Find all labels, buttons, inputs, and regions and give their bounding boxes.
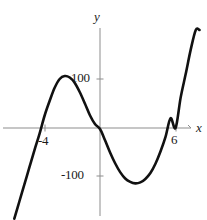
plot-canvas bbox=[0, 0, 207, 220]
y-axis-label: y bbox=[94, 10, 100, 23]
graph-figure: y x 100 -100 -4 6 bbox=[0, 0, 207, 220]
y-tick-label-neg100: -100 bbox=[61, 168, 84, 181]
x-axis-label: x bbox=[196, 121, 202, 134]
x-tick-label-6: 6 bbox=[171, 133, 178, 146]
cubic-curve bbox=[14, 29, 199, 219]
y-tick-label-100: 100 bbox=[71, 71, 90, 84]
x-tick-label-neg4: -4 bbox=[38, 134, 48, 147]
